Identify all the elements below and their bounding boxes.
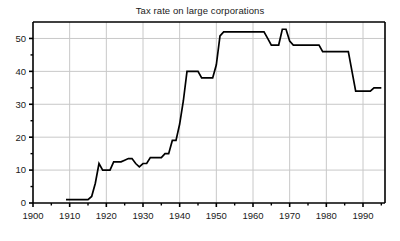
x-axis-tick-label: 1980 — [316, 210, 337, 221]
y-axis-tick-label: 50 — [15, 33, 26, 44]
plot-frame — [33, 22, 385, 203]
y-axis-tick-label: 20 — [15, 132, 26, 143]
x-axis-tick-label: 1990 — [352, 210, 373, 221]
y-axis-tick-label: 40 — [15, 66, 26, 77]
x-axis-tick-label: 1900 — [22, 210, 43, 221]
data-series-line — [66, 29, 381, 199]
y-axis-tick-label: 10 — [15, 164, 26, 175]
x-axis-tick-label: 1960 — [242, 210, 263, 221]
x-axis-tick-label: 1910 — [59, 210, 80, 221]
x-axis-tick-label: 1920 — [96, 210, 117, 221]
line-chart-plot: 01020304050 1900191019201930194019501960… — [0, 0, 400, 241]
y-axis-tick-label: 0 — [21, 197, 26, 208]
grid-lines — [33, 22, 385, 203]
y-axis-tick-label: 30 — [15, 99, 26, 110]
x-axis-tick-label: 1930 — [132, 210, 153, 221]
y-axis: 01020304050 — [15, 22, 33, 208]
chart-figure: Tax rate on large corporations 010203040… — [0, 0, 400, 241]
x-axis: 1900191019201930194019501960197019801990 — [22, 203, 385, 221]
x-axis-tick-label: 1970 — [279, 210, 300, 221]
x-axis-tick-label: 1950 — [206, 210, 227, 221]
data-line — [66, 29, 381, 199]
x-axis-tick-label: 1940 — [169, 210, 190, 221]
